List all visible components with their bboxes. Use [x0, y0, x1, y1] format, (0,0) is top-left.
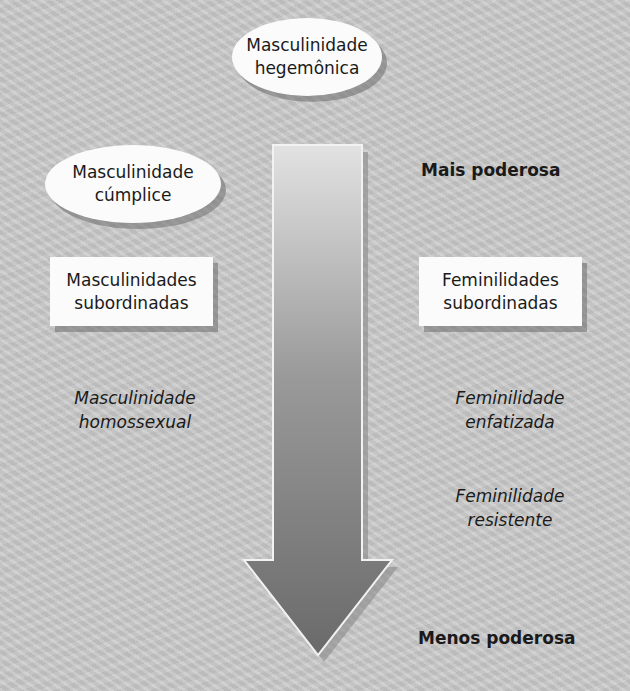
label-line: Masculinidade [74, 386, 195, 410]
node-line: Masculinidades [66, 269, 196, 292]
complicit-masculinity-node: Masculinidade cúmplice [45, 145, 221, 223]
subordinate-femininities-node: Feminilidades subordinadas [419, 257, 582, 326]
label-line: resistente [468, 508, 553, 532]
label-line: Feminilidade [456, 386, 565, 410]
label-line: homossexual [79, 410, 191, 434]
subordinate-masculinities-node: Masculinidades subordinadas [50, 257, 213, 326]
node-line: subordinadas [74, 292, 188, 315]
node-line: subordinadas [443, 292, 557, 315]
label-line: Feminilidade [456, 484, 565, 508]
node-line: Masculinidade [246, 34, 367, 57]
power-gradient-arrow-icon [0, 0, 630, 691]
label-line: enfatizada [465, 410, 555, 434]
emphasized-femininity-label: Feminilidade enfatizada [430, 386, 590, 434]
less-powerful-label: Menos poderosa [418, 628, 575, 648]
resistant-femininity-label: Feminilidade resistente [430, 484, 590, 532]
node-line: Feminilidades [442, 269, 559, 292]
homosexual-masculinity-label: Masculinidade homossexual [50, 386, 220, 434]
hegemonic-masculinity-node: Masculinidade hegemônica [232, 18, 382, 96]
more-powerful-label: Mais poderosa [421, 160, 560, 180]
node-line: hegemônica [255, 57, 360, 80]
node-line: Masculinidade [72, 161, 193, 184]
node-line: cúmplice [95, 184, 172, 207]
